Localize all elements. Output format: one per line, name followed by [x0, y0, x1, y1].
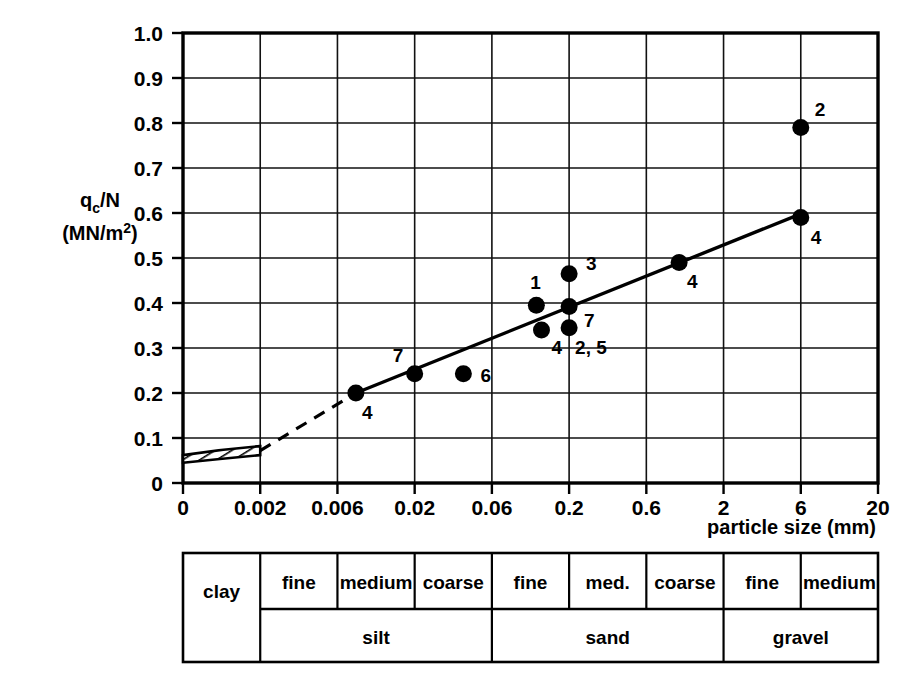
data-point-marker: [533, 322, 550, 339]
data-point-label: 4: [811, 227, 822, 248]
x-tick-label: 0.02: [394, 496, 435, 519]
data-point-marker: [561, 298, 578, 315]
table-cell-silt-coarse: coarse: [423, 572, 484, 593]
y-tick-label: 0.2: [134, 382, 163, 405]
data-point-label: 7: [584, 310, 595, 331]
y-tick-label: 0: [151, 472, 163, 495]
table-cell-sand-coarse: coarse: [654, 572, 715, 593]
data-point-marker: [455, 365, 472, 382]
data-point-label: 2, 5: [575, 337, 607, 358]
table-cell-gravel: gravel: [773, 627, 829, 648]
data-point-label: 4: [551, 337, 562, 358]
data-point-marker: [561, 319, 578, 336]
table-cell-silt-fine: fine: [282, 572, 316, 593]
table-cell-silt-medium: medium: [340, 572, 413, 593]
chart-figure: qc/N (MN/m2) 00.10.20.30.40.50.60.70.80.…: [0, 0, 918, 696]
x-tick-label: 0.006: [311, 496, 364, 519]
data-point-label: 2: [815, 99, 826, 120]
y-tick-label: 0.9: [134, 67, 163, 90]
data-point-marker: [561, 265, 578, 282]
y-tick-label: 0.4: [134, 292, 164, 315]
table-cell-gravel-fine: fine: [745, 572, 779, 593]
x-axis-title: particle size (mm): [707, 516, 876, 538]
data-point-marker: [792, 209, 809, 226]
x-tick-label: 0: [177, 496, 189, 519]
data-point-label: 7: [393, 345, 404, 366]
table-cell-sand-fine: fine: [514, 572, 548, 593]
data-point-label: 6: [480, 365, 491, 386]
data-point-marker: [671, 254, 688, 271]
y-tick-label: 0.3: [134, 337, 163, 360]
data-point-label: 1: [530, 272, 541, 293]
particle-size-vs-qc-n-chart: qc/N (MN/m2) 00.10.20.30.40.50.60.70.80.…: [0, 0, 918, 696]
y-tick-label: 0.8: [134, 112, 164, 135]
y-tick-label: 0.5: [134, 247, 164, 270]
y-tick-label: 0.6: [134, 202, 163, 225]
x-tick-label: 0.06: [471, 496, 512, 519]
data-point-marker: [528, 297, 545, 314]
table-cell-sand: sand: [586, 627, 630, 648]
data-point-label: 4: [362, 402, 373, 423]
y-tick-label: 1.0: [134, 22, 163, 45]
x-tick-label: 0.6: [632, 496, 661, 519]
x-tick-label: 0.2: [555, 496, 584, 519]
data-point-marker: [406, 365, 423, 382]
table-cell-clay: clay: [203, 581, 240, 602]
table-cell-gravel-medium: medium: [803, 572, 876, 593]
x-tick-label: 0.002: [234, 496, 287, 519]
table-cell-sand-med: med.: [586, 572, 630, 593]
y-tick-label: 0.1: [134, 427, 164, 450]
soil-classification-table: clayfinemediumcoarsefinemed.coarsefineme…: [183, 553, 878, 662]
data-point-label: 4: [687, 271, 698, 292]
data-point-marker: [792, 119, 809, 136]
data-point-label: 3: [586, 253, 597, 274]
y-tick-label: 0.7: [134, 157, 163, 180]
data-point-marker: [347, 385, 364, 402]
table-cell-silt: silt: [362, 627, 390, 648]
